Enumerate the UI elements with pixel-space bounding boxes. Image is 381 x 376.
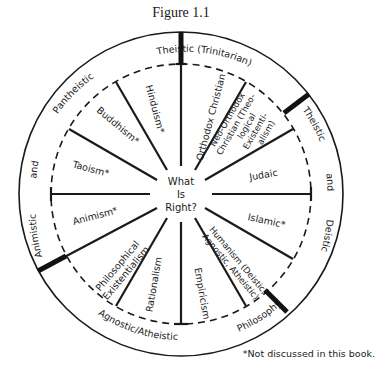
sector-rationalism: Rationalism [143, 256, 164, 313]
footnote: *Not discussed in this book. [243, 348, 375, 359]
sector-philosophical-existentialism: Philosophical Existentialism [92, 237, 152, 302]
sector-animism: Animism* [71, 204, 119, 227]
ring-label-theistic: Theistic [300, 104, 328, 143]
figure-title: Figure 1.1 [152, 5, 210, 20]
sector-buddhism: Buddhism* [95, 104, 142, 146]
svg-text:Right?: Right? [165, 202, 197, 213]
sector-empiricism: Empiricism [192, 267, 212, 321]
sector-hinduism: Hinduism* [144, 84, 167, 135]
svg-text:What: What [168, 176, 194, 187]
ring-label-and-left: and [27, 160, 40, 179]
ring-label-philosophy: Philosophy [235, 297, 283, 334]
worldview-wheel-diagram: Figure 1.1 Theistic (Trinitarian) Theist… [0, 0, 381, 376]
sector-islamic: Islamic* [247, 211, 287, 230]
sector-taoism: Taoism* [70, 158, 110, 179]
sector-humanism: Humanism (Deistic, Agnostic, Atheistic) [200, 225, 270, 302]
spokes [40, 64, 311, 324]
ring-label-pantheistic: Pantheistic [50, 70, 95, 115]
svg-text:Is: Is [177, 189, 185, 200]
ring-label-and-right: and [324, 173, 336, 192]
sector-judaic: Judaic [247, 167, 278, 183]
svg-text:Humanism (Deistic,: Humanism (Deistic, [207, 225, 269, 296]
ring-label-agnostic-atheistic: Agnostic/Atheistic [97, 307, 179, 342]
center-question: What Is Right? [165, 176, 197, 213]
